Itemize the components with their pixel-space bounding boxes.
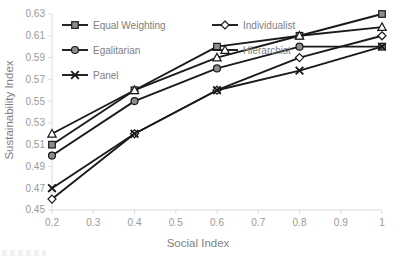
y-tick-label: 0.47 [26,183,46,194]
y-tick-label: 0.51 [26,139,46,150]
y-tick-label: 0.61 [26,30,46,41]
x-axis-title: Social Index [167,237,230,249]
y-tick-label: 0.63 [26,8,46,19]
y-tick-label: 0.49 [26,161,46,172]
data-point-marker-circle-0 [49,152,56,159]
data-point-marker-circle-2 [214,65,221,72]
legend-label: Hierarchist [243,45,291,56]
legend-label: Panel [93,70,119,81]
x-tick-label: 0.7 [251,217,265,228]
legend-item-equal-weighting[interactable]: Equal Weighting [62,20,166,31]
legend-label: Egalitarian [93,45,140,56]
clipped-caption-artifact [2,250,46,256]
x-tick-label: 0.6 [210,217,224,228]
data-point-marker-legend-circle [72,47,79,54]
data-point-marker-square-0 [49,141,56,148]
y-tick-label: 0.53 [26,117,46,128]
x-tick-label: 0.4 [128,217,142,228]
y-axis-title: Sustainability Index [3,60,15,159]
y-tick-label: 0.59 [26,52,46,63]
data-point-marker-circle-3 [296,43,303,50]
data-point-marker-legend-diamond [221,21,229,29]
y-tick-labels: 0.450.470.490.510.530.550.570.590.610.63 [26,8,52,215]
sustainability-index-chart: 0.450.470.490.510.530.550.570.590.610.63… [0,0,396,261]
data-point-marker-legend-square [72,22,79,29]
x-tick-label: 0.3 [86,217,100,228]
x-tick-label: 0.9 [334,217,348,228]
data-point-marker-diamond-3 [296,54,304,62]
chart-canvas: 0.450.470.490.510.530.550.570.590.610.63… [0,0,396,261]
legend-item-egalitarian[interactable]: Egalitarian [62,45,140,56]
data-point-marker-triangle-0 [48,130,56,138]
x-tick-label: 0.2 [45,217,59,228]
data-point-marker-square-4 [379,11,386,18]
data-point-marker-diamond-4 [378,32,386,40]
y-tick-label: 0.55 [26,96,46,107]
y-tick-label: 0.45 [26,204,46,215]
y-tick-label: 0.57 [26,74,46,85]
x-tick-label: 0.5 [169,217,183,228]
legend-item-individualist[interactable]: Individualist [212,20,295,31]
x-tick-label: 0.8 [293,217,307,228]
legend-label: Equal Weighting [93,20,166,31]
data-point-marker-square-2 [214,43,221,50]
data-point-marker-circle-1 [131,98,138,105]
series-group [48,11,386,203]
series-line [52,47,382,156]
chart-legend: Equal WeightingIndividualistEgalitarianH… [62,20,295,81]
x-tick-labels: 0.20.30.40.50.60.70.80.91 [45,210,385,228]
legend-label: Individualist [243,20,295,31]
legend-item-panel[interactable]: Panel [62,70,119,81]
x-tick-label: 1 [379,217,385,228]
